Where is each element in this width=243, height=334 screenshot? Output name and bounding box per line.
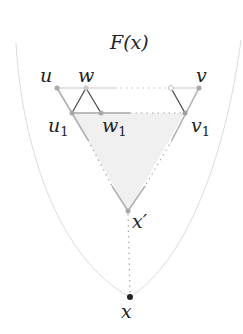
node-u1	[70, 111, 75, 116]
edge-u1-w	[72, 88, 86, 113]
shaded-triangle	[72, 113, 185, 211]
label-u1: u1	[48, 114, 69, 139]
node-w	[84, 86, 89, 91]
edge-open-v1	[171, 88, 185, 113]
node-xp	[126, 209, 131, 214]
edge-w-w1	[86, 88, 101, 113]
node-v1	[183, 111, 188, 116]
node-u	[55, 86, 60, 91]
edge-xp-x	[128, 214, 130, 294]
node-v	[197, 86, 202, 91]
node-open	[169, 86, 174, 91]
title-label: F(x)	[109, 31, 149, 53]
label-v1: v1	[191, 114, 210, 139]
label-u: u	[40, 64, 52, 86]
diagram-canvas: F(x) u w v u1 w1 v1 x′ x	[0, 0, 243, 334]
label-x: x	[121, 300, 132, 322]
label-xprime: x′	[132, 210, 148, 232]
label-w: w	[78, 64, 94, 86]
label-v: v	[196, 64, 207, 86]
